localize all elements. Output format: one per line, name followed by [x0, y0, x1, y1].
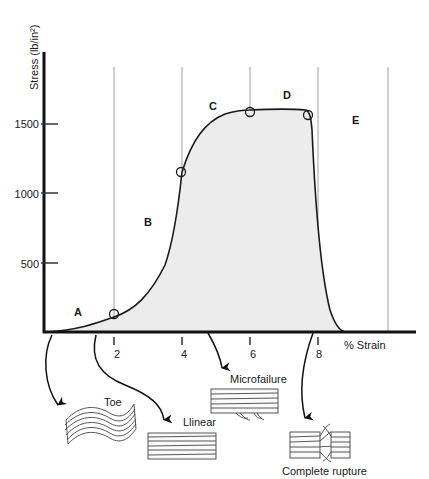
region-label-e: E — [352, 114, 359, 126]
x-tick-label: 6 — [250, 348, 256, 360]
rupture-fiber-illustration — [290, 424, 350, 462]
area-under-curve — [46, 109, 345, 332]
rupture-label: Complete rupture — [282, 465, 367, 477]
region-label-c: C — [209, 100, 217, 112]
x-ticks — [114, 337, 318, 345]
linear-label: Llinear — [183, 416, 216, 428]
y-tick-label: 500 — [21, 258, 39, 270]
stress-strain-figure: 500 1000 1500 2 4 6 8 Stress (lb/in²) % … — [0, 0, 429, 479]
x-tick-label: 2 — [114, 348, 120, 360]
linear-fiber-illustration — [148, 433, 216, 459]
x-axis-label: % Strain — [344, 339, 386, 351]
microfailure-label: Microfailure — [230, 373, 287, 385]
microfailure-fiber-illustration — [211, 389, 278, 420]
y-tick-label: 1500 — [15, 118, 39, 130]
x-tick-label: 4 — [181, 348, 187, 360]
region-label-d: D — [283, 89, 291, 101]
arrow-toe — [46, 335, 58, 405]
region-label-a: A — [74, 306, 82, 318]
toe-fiber-illustration — [65, 404, 136, 444]
y-axis-label: Stress (lb/in²) — [28, 25, 40, 90]
x-tick-label: 8 — [316, 348, 322, 360]
region-label-b: B — [144, 216, 152, 228]
y-tick-label: 1000 — [15, 188, 39, 200]
arrow-microfailure — [208, 333, 222, 368]
toe-label: Toe — [104, 396, 122, 408]
arrow-rupture — [302, 333, 313, 418]
